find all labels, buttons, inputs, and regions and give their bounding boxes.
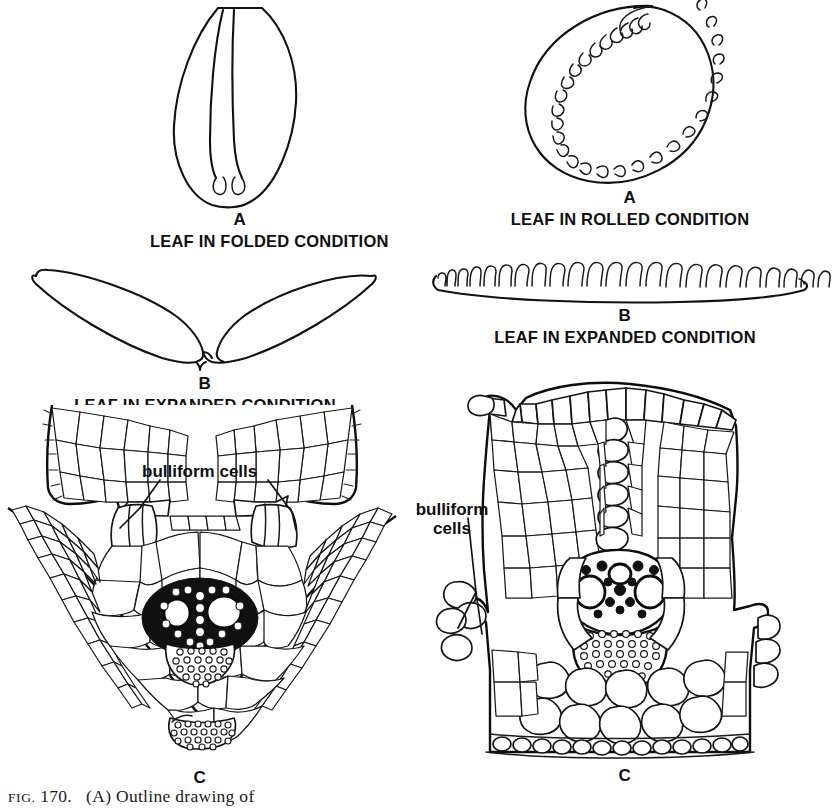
panel-letter-folded-a: A	[150, 210, 330, 230]
panel-rolled-c: C	[420, 370, 830, 790]
figure-caption-number: 170.	[40, 786, 72, 806]
panel-letter-rolled-a: A	[440, 188, 820, 208]
rolled-leaf-cell-section	[420, 370, 820, 770]
bulliform-cells-text-right-line2: cells	[433, 519, 471, 538]
panel-letter-folded-c: C	[0, 768, 400, 788]
rolled-leaf-expanded-outline	[430, 258, 810, 310]
bulliform-cells-label-right: bulliform cells	[398, 500, 506, 538]
bulliform-cells-text-right-line1: bulliform	[416, 500, 489, 519]
figure-plate: A LEAF IN FOLDED CONDITION B LEAF IN EXP…	[0, 0, 832, 808]
folded-leaf-outline-drawing	[150, 2, 330, 212]
figure-caption: FIG. 170. (A) Outline drawing of	[8, 786, 338, 807]
rolled-leaf-outline-drawing	[502, 0, 762, 185]
panel-folded-c: C	[0, 400, 400, 800]
panel-folded-a: A LEAF IN FOLDED CONDITION	[150, 2, 330, 252]
panel-letter-rolled-c: C	[420, 766, 830, 786]
panel-title-folded-a: LEAF IN FOLDED CONDITION	[150, 232, 330, 251]
panel-rolled-b: B LEAF IN EXPANDED CONDITION	[430, 258, 820, 348]
panel-folded-b: B LEAF IN EXPANDED CONDITION	[10, 262, 400, 402]
folded-leaf-expanded-outline	[10, 262, 400, 372]
panel-title-rolled-b: LEAF IN EXPANDED CONDITION	[430, 328, 820, 347]
figure-caption-prefix: FIG.	[8, 790, 36, 805]
folded-leaf-cell-section	[0, 400, 400, 770]
panel-letter-rolled-b: B	[430, 306, 820, 326]
panel-rolled-a: A LEAF IN ROLLED CONDITION	[440, 0, 820, 240]
panel-title-rolled-a: LEAF IN ROLLED CONDITION	[440, 210, 820, 229]
bulliform-cells-text-left: bulliform cells	[142, 462, 257, 481]
panel-letter-folded-b: B	[10, 374, 400, 394]
bulliform-cells-label-left: bulliform cells	[142, 462, 257, 481]
figure-caption-text: (A) Outline drawing of	[86, 786, 254, 806]
